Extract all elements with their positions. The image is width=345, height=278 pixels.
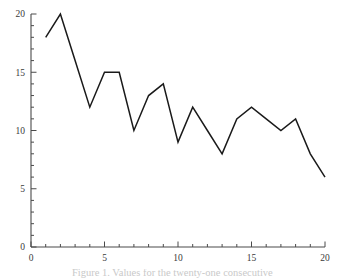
data-series <box>46 14 325 177</box>
y-tick-label: 5 <box>20 184 25 194</box>
y-tick-label: 20 <box>16 9 26 19</box>
x-tick-label: 15 <box>247 253 257 263</box>
figure-caption-text: Figure 1. Values for the twenty-one cons… <box>72 269 273 278</box>
y-tick-label: 15 <box>16 68 26 78</box>
y-axis-tick-labels: 05101520 <box>16 9 26 252</box>
x-tick-label: 10 <box>173 253 183 263</box>
x-tick-label: 5 <box>102 253 107 263</box>
y-tick-label: 10 <box>16 126 26 136</box>
data-line <box>46 14 325 177</box>
x-tick-label: 0 <box>29 253 34 263</box>
x-tick-label: 20 <box>320 253 330 263</box>
y-tick-label: 0 <box>20 242 25 252</box>
figure-caption-clipped: Figure 1. Values for the twenty-one cons… <box>0 269 345 278</box>
x-axis-tick-labels: 05101520 <box>29 253 330 263</box>
line-chart: 05101520 05101520 <box>0 0 345 278</box>
figure-container: 05101520 05101520 Figure 1. Values for t… <box>0 0 345 278</box>
